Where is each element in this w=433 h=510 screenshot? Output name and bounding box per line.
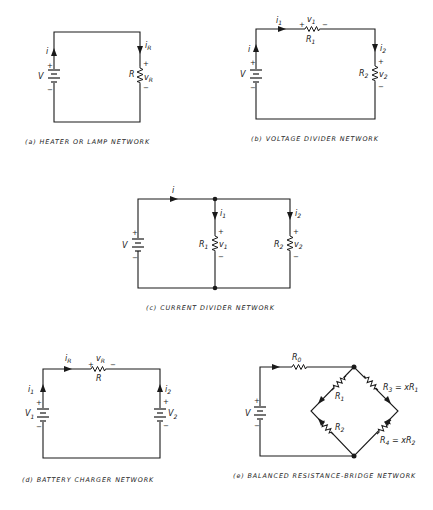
minus-sign: − [322,21,328,29]
arrow-right-icon [64,366,72,372]
resistor-r0-symbol [290,365,308,370]
minus-sign: − [378,83,384,91]
r2-voltage-label: v2 [294,240,303,250]
plus-sign: + [88,361,94,369]
resistor-voltage-label: vR [96,354,105,364]
arrow-right-icon [272,364,280,370]
resistor-label: R [129,70,135,79]
caption: (e) BALANCED RESISTANCE-BRIDGE NETWORK [233,472,416,480]
r1-voltage-label: v1 [307,15,316,25]
arrow-up-icon [51,48,57,56]
figure-a-heater-lamp: i + V − iR + R vR − (a) HEATER OR LAMP N… [25,32,153,146]
battery-v2-symbol [154,409,166,421]
plus-sign: + [143,60,149,68]
figure-b-voltage-divider: i + V − i1 + v1 − R1 i2 + R2 v2 − (b) VO… [240,15,388,143]
r1-label: R1 [335,392,344,402]
r2-current-label: i2 [295,209,301,219]
source-label: V [122,241,128,250]
minus-sign: − [110,361,116,369]
caption: (d) BATTERY CHARGER NETWORK [22,476,154,484]
current-label: i [248,45,251,54]
junction-node [352,454,357,459]
junction-node [213,286,218,291]
v2-label: V2 [168,409,177,420]
battery-v1-symbol [37,409,49,421]
source-label: V [38,72,44,81]
minus-sign: − [254,422,260,430]
r2-voltage-label: v2 [379,70,388,80]
resistor-voltage-label: vR [144,73,153,83]
r1-current-label: i1 [276,16,282,26]
plus-sign: + [254,397,260,405]
r0-label: R0 [292,353,302,363]
plus-sign: + [299,21,305,29]
minus-sign: − [132,254,138,262]
caption: (c) CURRENT DIVIDER NETWORK [146,304,275,312]
arrow-down-icon [287,212,293,220]
r2-label: R2 [274,240,284,250]
r2-label: R2 [335,423,345,433]
arrow-right-icon [170,196,178,202]
battery-symbol [48,70,60,82]
arrow-up-icon [157,384,163,392]
minus-sign: − [143,84,149,92]
arrow-up-icon [40,384,46,392]
resistor-current-label: iR [145,41,151,51]
junction-node [352,365,357,370]
minus-sign: − [36,423,42,431]
r4-label: R4 = xR2 [380,436,415,446]
arrow-down-icon [137,46,143,54]
source-label: V [240,70,246,79]
r1-label: R1 [306,35,315,45]
battery-symbol [254,407,266,419]
caption: (b) VOLTAGE DIVIDER NETWORK [251,135,379,143]
source-label: V [245,409,251,418]
plus-sign: + [218,228,224,236]
r2-current-label: i2 [380,44,386,54]
r1-voltage-label: v1 [219,240,228,250]
resistor-symbol [137,66,143,84]
resistor-r2-symbol [287,234,293,252]
resistor-r2-symbol [372,64,378,82]
arrow-up-icon [253,44,259,52]
resistor-current-label: iR [65,354,71,364]
resistor-label: R [96,374,102,383]
wire-loop [256,29,375,119]
resistor-r1-symbol [212,234,218,252]
battery-symbol [132,239,144,251]
current-label: i [172,186,175,195]
minus-sign: − [163,422,169,430]
r1-label: R1 [199,240,208,250]
figure-c-current-divider: i + V − i1 + R1 v1 − i2 + R2 v2 − (c) CU… [122,186,303,312]
arrow-down-right-icon [384,396,391,404]
plus-sign: + [132,229,138,237]
plus-sign: + [163,398,169,406]
plus-sign: + [293,228,299,236]
arrow-right-icon [278,26,286,32]
minus-sign: − [218,253,224,261]
figure-e-resistance-bridge: + V − R0 R1 R2 R3 = xR1 R4 = xR2 (e) BAL… [233,353,418,480]
arrow-down-icon [372,44,378,52]
v2-current-label: i2 [165,385,171,395]
junction-node [213,197,218,202]
wire-loop [54,32,140,122]
v1-current-label: i1 [28,385,34,395]
resistor-r1-symbol [303,27,321,32]
minus-sign: − [293,253,299,261]
battery-symbol [250,70,262,82]
arrow-down-icon [212,212,218,220]
r3-label: R3 = xR1 [383,383,418,393]
r2-label: R2 [359,69,369,79]
plus-sign: + [250,59,256,67]
v1-label: V1 [25,409,34,420]
caption: (a) HEATER OR LAMP NETWORK [25,138,150,146]
minus-sign: − [47,86,53,94]
plus-sign: + [378,58,384,66]
minus-sign: − [250,84,256,92]
plus-sign: + [47,62,53,70]
r1-current-label: i1 [220,209,226,219]
circuit-diagrams: i + V − iR + R vR − (a) HEATER OR LAMP N… [0,0,433,510]
figure-d-battery-charger: i1 + V1 − iR + vR − R i2 + V2 − (d) BATT… [22,354,177,484]
current-label: i [46,47,49,56]
plus-sign: + [36,399,42,407]
